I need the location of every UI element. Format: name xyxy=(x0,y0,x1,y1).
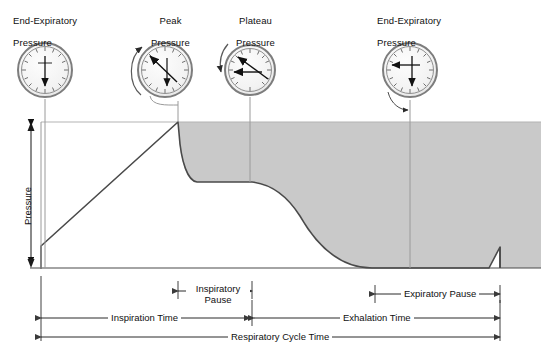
phase-label-inspiration-time: Inspiration Time xyxy=(108,312,181,323)
gauge-label-line2: Pressure xyxy=(377,37,416,48)
gauge-label-line2: Pressure xyxy=(236,37,275,48)
pressure-waveform-figure: End-Expiratory Pressure Peak Pressure Pl… xyxy=(0,0,541,349)
phase-label-respiratory-cycle-time: Respiratory Cycle Time xyxy=(228,331,332,342)
gauge-label-plateau: Plateau Pressure xyxy=(218,4,282,59)
phase-label-expiratory-pause: Expiratory Pause xyxy=(401,288,479,299)
phase-label-line1: Inspiratory xyxy=(196,283,240,294)
gauge-label-line2: Pressure xyxy=(13,37,52,48)
gauge-label-line2: Pressure xyxy=(151,37,190,48)
gauge-label-peak: Peak Pressure xyxy=(133,4,197,59)
gauge-label-line1: End-Expiratory xyxy=(13,15,77,26)
phase-label-inspiratory-pause: Inspiratory Pause xyxy=(186,283,250,305)
gauge-label-end-expiratory-right: End-Expiratory Pressure xyxy=(366,4,441,59)
pressure-axis-label: Pressure xyxy=(22,187,33,225)
gauge-label-end-expiratory-left: End-Expiratory Pressure xyxy=(2,4,77,59)
phase-label-exhalation-time: Exhalation Time xyxy=(340,312,414,323)
phase-label-line2: Pause xyxy=(205,294,232,305)
gauge-label-line1: Plateau xyxy=(239,15,272,26)
pressure-area-fill xyxy=(41,122,541,268)
pressure-field xyxy=(30,122,541,268)
gauge-label-line1: End-Expiratory xyxy=(377,15,441,26)
gauge-label-line1: Peak xyxy=(159,15,181,26)
